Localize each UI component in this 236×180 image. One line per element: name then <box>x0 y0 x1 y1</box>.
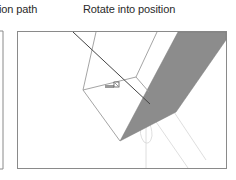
rotate-diagram <box>0 0 236 180</box>
previous-panel-frame <box>0 31 3 169</box>
